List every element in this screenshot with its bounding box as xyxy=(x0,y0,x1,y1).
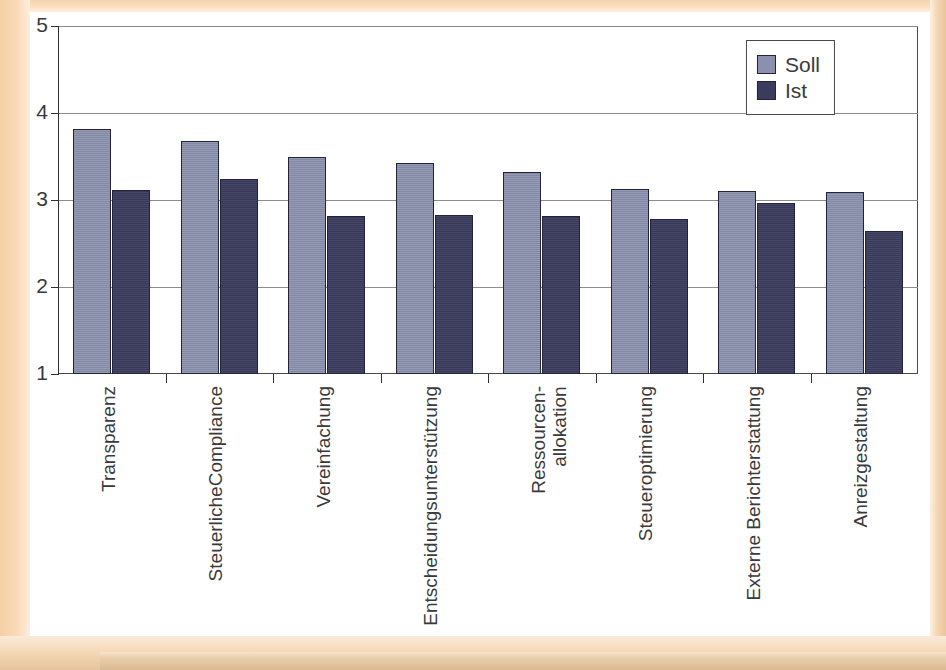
x-axis-label-6: Externe Berichterstattung xyxy=(743,386,764,600)
x-axis-label-3: Entscheidungsunterstützung xyxy=(420,386,441,626)
chart-page: 12345 SollIst TransparenzSteuerlicheComp… xyxy=(0,0,946,670)
x-tick-3 xyxy=(381,374,382,383)
y-tick-4 xyxy=(51,113,59,114)
y-tick-5 xyxy=(51,26,59,27)
x-axis-label-1: SteuerlicheCompliance xyxy=(205,386,226,581)
x-axis-label-7: Anreizgestaltung xyxy=(850,386,871,528)
legend-item-soll: Soll xyxy=(757,54,820,75)
x-axis-label-0: Transparenz xyxy=(98,386,119,492)
bar-soll-3 xyxy=(396,163,434,374)
bar-soll-4 xyxy=(503,172,541,374)
x-axis-label-5: Steueroptimierung xyxy=(635,386,656,541)
x-tick-5 xyxy=(596,374,597,383)
y-tick-label-3: 3 xyxy=(18,187,48,211)
legend-label-ist: Ist xyxy=(785,80,807,101)
bar-soll-5 xyxy=(611,189,649,374)
legend-swatch-soll xyxy=(757,55,776,74)
y-tick-label-1: 1 xyxy=(18,361,48,385)
x-tick-1 xyxy=(166,374,167,383)
y-tick-label-5: 5 xyxy=(18,13,48,37)
x-axis-label-4: Ressourcen- allokation xyxy=(528,386,571,494)
legend-label-soll: Soll xyxy=(785,54,820,75)
y-tick-label-4: 4 xyxy=(18,100,48,124)
y-tick-2 xyxy=(51,287,59,288)
bar-soll-6 xyxy=(718,191,756,374)
x-tick-2 xyxy=(273,374,274,383)
bar-soll-0 xyxy=(73,129,111,374)
bar-ist-2 xyxy=(327,216,365,374)
x-tick-4 xyxy=(488,374,489,383)
bar-soll-1 xyxy=(181,141,219,374)
y-tick-label-2: 2 xyxy=(18,274,48,298)
y-tick-1 xyxy=(51,374,59,375)
bar-ist-7 xyxy=(865,231,903,374)
bar-soll-2 xyxy=(288,157,326,374)
x-axis-category-labels: TransparenzSteuerlicheComplianceVereinfa… xyxy=(58,386,918,656)
legend-swatch-ist xyxy=(757,81,776,100)
x-tick-7 xyxy=(811,374,812,383)
gridline-5 xyxy=(58,26,918,27)
bar-ist-4 xyxy=(542,216,580,374)
page-frame-top xyxy=(0,0,946,12)
chart-legend: SollIst xyxy=(746,40,835,115)
bar-soll-7 xyxy=(826,192,864,374)
page-frame-right xyxy=(930,0,946,670)
y-tick-3 xyxy=(51,200,59,201)
bar-ist-5 xyxy=(650,219,688,374)
bar-ist-3 xyxy=(435,215,473,374)
bar-ist-6 xyxy=(757,203,795,374)
bar-ist-1 xyxy=(220,179,258,374)
legend-item-ist: Ist xyxy=(757,80,820,101)
x-tick-6 xyxy=(703,374,704,383)
bar-ist-0 xyxy=(112,190,150,374)
x-axis-label-2: Vereinfachung xyxy=(313,386,334,508)
